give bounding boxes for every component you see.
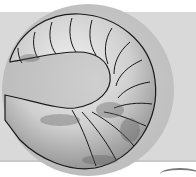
illustration-canvas [0,0,196,177]
grub-illustration [0,0,196,177]
